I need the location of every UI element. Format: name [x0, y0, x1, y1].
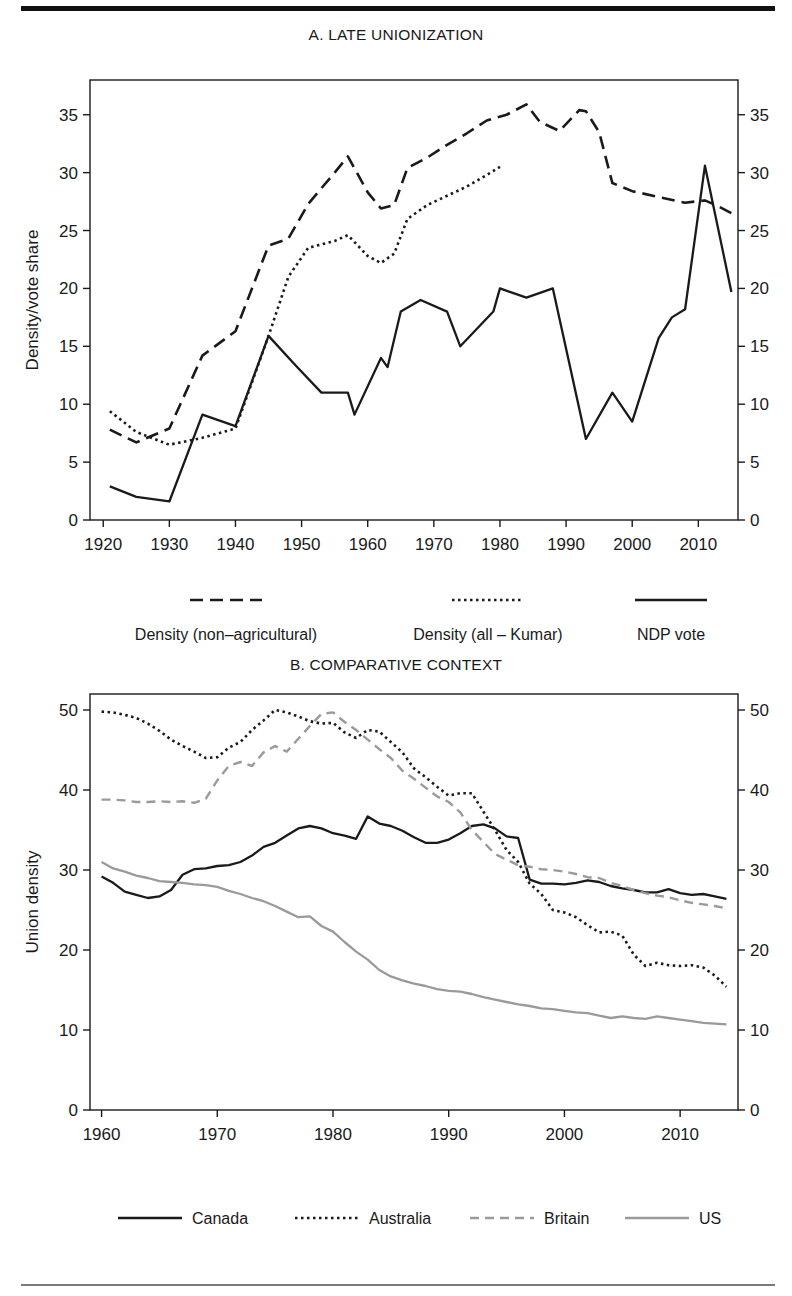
y-tick-label-right: 5 [750, 453, 759, 472]
x-tick-label: 1990 [430, 1125, 468, 1144]
y-tick-label-left: 0 [69, 1101, 78, 1120]
x-tick-label: 1920 [84, 535, 122, 554]
y-tick-label-right: 50 [750, 701, 769, 720]
panel-a-chart: 0055101015152020252530303535192019301940… [0, 48, 792, 648]
y-tick-label-left: 5 [69, 453, 78, 472]
y-tick-label-left: 20 [59, 279, 78, 298]
top-divider-rule [21, 6, 775, 11]
series-line-australia [102, 710, 727, 987]
x-tick-label: 1930 [150, 535, 188, 554]
y-tick-label-right: 20 [750, 279, 769, 298]
y-tick-label-left: 10 [59, 1021, 78, 1040]
x-tick-label: 1990 [547, 535, 585, 554]
y-tick-label-left: 10 [59, 395, 78, 414]
legend-label: US [699, 1210, 721, 1227]
x-tick-label: 2000 [613, 535, 651, 554]
y-tick-label-left: 30 [59, 164, 78, 183]
y-tick-label-right: 30 [750, 164, 769, 183]
y-axis-title: Union density [23, 850, 42, 954]
x-tick-label: 1970 [415, 535, 453, 554]
x-tick-label: 1960 [349, 535, 387, 554]
y-tick-label-right: 15 [750, 337, 769, 356]
y-tick-label-right: 20 [750, 941, 769, 960]
y-tick-label-right: 25 [750, 222, 769, 241]
y-tick-label-left: 20 [59, 941, 78, 960]
x-tick-label: 1960 [83, 1125, 121, 1144]
legend-label: Density (non–agricultural) [135, 626, 317, 643]
y-tick-label-right: 0 [750, 511, 759, 530]
x-tick-label: 1970 [198, 1125, 236, 1144]
panel-b-svg: 0010102020303040405050196019701980199020… [0, 678, 792, 1278]
y-tick-label-left: 25 [59, 222, 78, 241]
y-tick-label-left: 30 [59, 861, 78, 880]
series-line-density-all-kumar [110, 167, 500, 445]
x-tick-label: 2010 [661, 1125, 699, 1144]
y-tick-label-left: 50 [59, 701, 78, 720]
panel-b-chart: 0010102020303040405050196019701980199020… [0, 678, 792, 1278]
legend-label: NDP vote [637, 626, 705, 643]
legend-label: Australia [369, 1210, 431, 1227]
panel-a: A. LATE UNIONIZATION 0055101015152020252… [0, 26, 792, 646]
panel-a-title: A. LATE UNIONIZATION [0, 26, 792, 44]
y-tick-label-left: 35 [59, 106, 78, 125]
y-tick-label-right: 10 [750, 1021, 769, 1040]
x-tick-label: 1940 [217, 535, 255, 554]
bottom-divider-rule [21, 1284, 775, 1286]
legend-label: Britain [544, 1210, 589, 1227]
y-tick-label-right: 0 [750, 1101, 759, 1120]
x-tick-label: 2000 [546, 1125, 584, 1144]
y-tick-label-right: 30 [750, 861, 769, 880]
legend-label: Canada [192, 1210, 248, 1227]
legend-label: Density (all – Kumar) [413, 626, 562, 643]
y-tick-label-left: 40 [59, 781, 78, 800]
panel-b: B. COMPARATIVE CONTEXT 00101020203030404… [0, 656, 792, 1276]
series-line-density-non-agricultural [110, 104, 732, 442]
series-line-ndp-vote [110, 166, 732, 502]
x-tick-label: 1980 [314, 1125, 352, 1144]
y-tick-label-right: 35 [750, 106, 769, 125]
series-line-us [102, 862, 727, 1024]
x-tick-label: 2010 [679, 535, 717, 554]
x-tick-label: 1980 [481, 535, 519, 554]
y-tick-label-right: 40 [750, 781, 769, 800]
y-axis-title: Density/vote share [23, 230, 42, 371]
y-tick-label-right: 10 [750, 395, 769, 414]
y-tick-label-left: 0 [69, 511, 78, 530]
panel-a-svg: 0055101015152020252530303535192019301940… [0, 48, 792, 648]
figure-page: A. LATE UNIONIZATION 0055101015152020252… [0, 0, 792, 1296]
panel-b-title: B. COMPARATIVE CONTEXT [0, 656, 792, 674]
series-line-canada [102, 816, 727, 898]
series-line-britain [102, 712, 727, 908]
x-tick-label: 1950 [283, 535, 321, 554]
y-tick-label-left: 15 [59, 337, 78, 356]
